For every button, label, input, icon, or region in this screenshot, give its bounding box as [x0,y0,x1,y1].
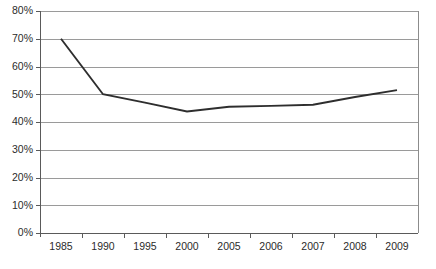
y-axis-label-0%: 0% [18,226,33,238]
y-axis-label-30%: 30% [12,143,33,155]
y-axis-label-40%: 40% [12,115,33,127]
y-axis-label-80%: 80% [12,4,33,16]
x-axis-label-1985: 1985 [49,240,73,252]
x-axis-label-2005: 2005 [217,240,241,252]
y-axis-label-20%: 20% [12,171,33,183]
x-axis-label-2006: 2006 [259,240,283,252]
chart-canvas: 0%10%20%30%40%50%60%70%80%19851990199520… [0,0,436,269]
x-axis-label-2008: 2008 [343,240,367,252]
x-axis-label-2000: 2000 [175,240,199,252]
line-chart: 0%10%20%30%40%50%60%70%80%19851990199520… [0,0,436,269]
x-axis-label-2007: 2007 [301,240,325,252]
y-axis-label-70%: 70% [12,32,33,44]
x-axis-label-1995: 1995 [133,240,157,252]
x-axis-label-1990: 1990 [91,240,115,252]
y-axis-label-10%: 10% [12,199,33,211]
y-axis-label-50%: 50% [12,88,33,100]
cropped-caption-text [0,263,436,269]
x-axis-label-2009: 2009 [385,240,409,252]
y-axis-label-60%: 60% [12,60,33,72]
